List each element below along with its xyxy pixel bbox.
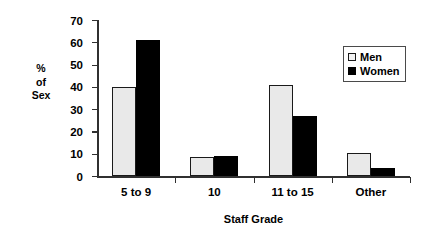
legend-swatch-women-icon: [348, 67, 356, 75]
bar-women-other: [371, 168, 395, 176]
legend-label-women: Women: [360, 66, 400, 77]
plot-area: 010203040506070: [97, 20, 410, 177]
y-axis-line: [97, 20, 99, 177]
y-axis-tick: 60: [92, 42, 97, 43]
x-axis-category-tick: [254, 177, 255, 183]
y-axis-tick-label: 70: [53, 15, 83, 27]
legend-item-men: Men: [348, 50, 400, 64]
bar-chart: % of Sex 010203040506070 5 to 91011 to 1…: [0, 0, 432, 243]
y-axis-tick-label: 10: [53, 148, 83, 160]
y-axis-tick: 0: [92, 176, 97, 177]
x-axis-category-tick: [332, 177, 333, 183]
legend-swatch-men-icon: [348, 53, 356, 61]
y-axis-tick-label: 40: [53, 81, 83, 93]
y-axis-tick-label: 0: [53, 171, 83, 183]
y-axis-tick-label: 30: [53, 104, 83, 116]
x-axis-label-other: Other: [321, 186, 421, 198]
y-axis-tick-label: 20: [53, 126, 83, 138]
bar-men-other: [347, 153, 371, 176]
bar-women-11-to-15: [293, 116, 317, 176]
y-axis-tick-label: 60: [53, 37, 83, 49]
y-axis-tick: 40: [92, 87, 97, 88]
x-axis-title: Staff Grade: [97, 213, 410, 225]
y-axis-tick: 50: [92, 65, 97, 66]
x-axis-category-tick: [410, 177, 411, 183]
legend: Men Women: [343, 46, 406, 82]
bar-women-10: [214, 156, 238, 176]
bar-men-11-to-15: [269, 85, 293, 176]
legend-item-women: Women: [348, 64, 400, 78]
y-axis-tick: 30: [92, 109, 97, 110]
y-axis-tick: 20: [92, 131, 97, 132]
y-axis-tick-label: 50: [53, 59, 83, 71]
bar-men-10: [190, 157, 214, 176]
legend-label-men: Men: [360, 52, 382, 63]
y-axis-tick: 70: [92, 20, 97, 21]
bar-men-5-to-9: [112, 87, 136, 176]
y-axis-tick: 10: [92, 154, 97, 155]
x-axis-category-tick: [175, 177, 176, 183]
bar-women-5-to-9: [136, 40, 160, 176]
